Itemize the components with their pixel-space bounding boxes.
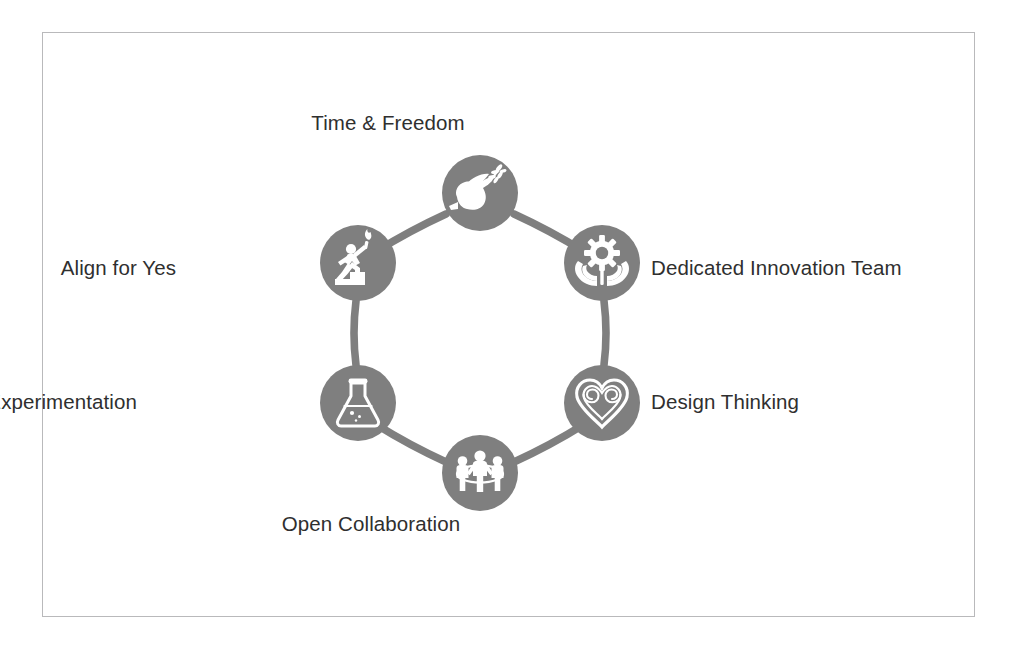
three-people-holding-hands-icon — [457, 450, 504, 492]
node-label-dedicated-innovation-team: Dedicated Innovation Team — [651, 258, 902, 279]
node-circle-design-thinking — [564, 365, 640, 441]
node-label-design-thinking: Design Thinking — [651, 392, 799, 413]
node-label-align-for-yes: Align for Yes — [61, 258, 176, 279]
node-circle-experimentation — [320, 365, 396, 441]
node-label-open-collaboration: Open Collaboration — [282, 514, 460, 535]
cycle-diagram-graphic — [0, 0, 1023, 660]
node-label-experimentation: Experimentation — [0, 392, 137, 413]
cycle-diagram: Time & Freedom Dedicated Innovation Team… — [0, 0, 1023, 660]
node-label-time-freedom: Time & Freedom — [311, 113, 464, 134]
